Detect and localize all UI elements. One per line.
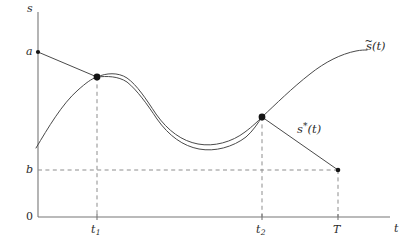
- curve-label-s-star-arg: (t): [308, 122, 322, 136]
- figure-container: s t 0 a b t1 t2 T ~s(t) s*(t): [0, 0, 411, 248]
- x-tick-label-t1-subscript: 1: [95, 228, 100, 237]
- y-tick-label-b: b: [26, 164, 33, 175]
- x-tick-label-t2: t2: [256, 224, 266, 236]
- marker-tangency-t1: [94, 74, 101, 81]
- x-tick-label-t1: t1: [91, 224, 101, 236]
- x-tick-label-t2-subscript: 2: [260, 228, 265, 237]
- curve-label-s-tilde: ~s(t): [366, 41, 386, 53]
- curve-s-star-arc: [97, 77, 262, 150]
- figure-canvas: [0, 0, 411, 248]
- curve-s-star-entry: [38, 52, 97, 77]
- tilde-accent-group: ~s: [366, 41, 372, 53]
- marker-tangency-t2: [259, 114, 266, 121]
- y-axis-label: s: [27, 3, 33, 14]
- x-tick-label-T: T: [333, 224, 340, 235]
- curve-label-s-tilde-arg: (t): [372, 39, 386, 53]
- marker-terminal-T: [336, 168, 341, 173]
- curve-label-s-star: s*(t): [297, 122, 321, 135]
- y-tick-label-a: a: [26, 46, 33, 57]
- x-axis-label: t: [394, 223, 398, 234]
- tilde-icon: ~: [365, 36, 373, 46]
- marker-point-a: [36, 50, 40, 54]
- origin-label: 0: [26, 211, 33, 222]
